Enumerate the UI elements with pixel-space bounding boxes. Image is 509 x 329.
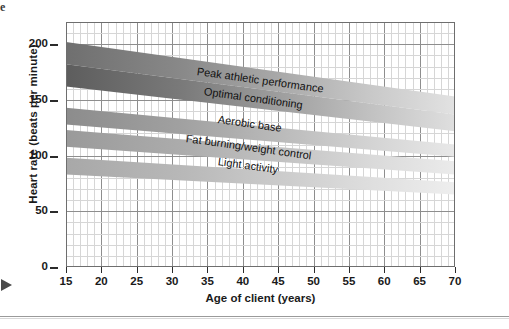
x-axis-tick-label: 40: [228, 275, 258, 287]
x-axis-tick: [314, 267, 315, 273]
x-axis-tick-label: 50: [299, 275, 329, 287]
x-axis-tick: [101, 267, 102, 273]
x-axis-title: Age of client (years): [66, 292, 455, 304]
chart-figure: e Peak athletic performanceOptimal condi…: [0, 0, 509, 329]
y-axis-tick: [50, 156, 58, 158]
y-axis-tick: [50, 44, 58, 46]
x-axis-tick: [455, 267, 456, 273]
x-axis-tick: [243, 267, 244, 273]
x-axis-tick-label: 45: [263, 275, 293, 287]
y-axis-tick: [50, 211, 58, 213]
y-axis-tick-label: 150: [14, 93, 48, 105]
x-axis-tick-label: 65: [405, 275, 435, 287]
y-axis-tick-label: 200: [14, 37, 48, 49]
y-axis-tick: [50, 267, 58, 269]
y-axis-title: Heart rate (beats per minute): [27, 29, 39, 219]
x-axis-tick-label: 55: [334, 275, 364, 287]
y-axis-tick: [50, 100, 58, 102]
y-axis-tick-label: 0: [14, 260, 48, 272]
x-axis-tick-label: 20: [86, 275, 116, 287]
x-axis-tick: [207, 267, 208, 273]
x-axis-tick: [137, 267, 138, 273]
x-axis-tick: [420, 267, 421, 273]
x-axis-tick: [384, 267, 385, 273]
y-axis-tick-label: 100: [14, 149, 48, 161]
y-axis-tick-label: 50: [14, 204, 48, 216]
x-axis-tick: [66, 267, 67, 273]
x-axis-tick: [349, 267, 350, 273]
x-axis-tick-label: 35: [192, 275, 222, 287]
page-rule-shadow: [0, 318, 509, 319]
x-axis-tick-label: 30: [157, 275, 187, 287]
x-axis-tick-label: 25: [122, 275, 152, 287]
x-axis-tick: [172, 267, 173, 273]
x-axis-tick-label: 15: [51, 275, 81, 287]
x-axis-tick-label: 70: [440, 275, 470, 287]
x-axis-tick-label: 60: [369, 275, 399, 287]
page-rule: [0, 316, 509, 317]
x-axis-tick: [278, 267, 279, 273]
plot-area: Peak athletic performanceOptimal conditi…: [66, 22, 455, 267]
